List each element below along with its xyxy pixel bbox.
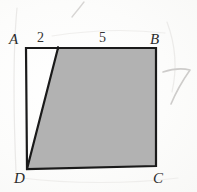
vertex-label-a: A <box>9 32 18 47</box>
vertex-label-b: B <box>150 32 159 47</box>
pencil-arc-right-icon <box>167 22 175 92</box>
figure-canvas: A B C D 2 5 <box>0 0 197 192</box>
vertex-label-c: C <box>153 171 163 186</box>
pencil-mark-seven-icon <box>163 69 190 104</box>
pencil-stroke-top-diagonal <box>72 2 84 17</box>
geometry-figure <box>0 0 197 192</box>
vertex-label-d: D <box>14 171 25 186</box>
shaded-region <box>27 48 156 169</box>
pencil-arc-top-icon <box>52 31 165 36</box>
segment-length-right: 5 <box>99 31 106 45</box>
segment-length-left: 2 <box>37 31 44 45</box>
